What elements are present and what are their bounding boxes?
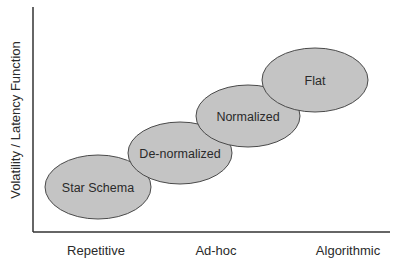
diagram-canvas: Volatility / Latency Function Star Schem… (0, 0, 403, 274)
ellipse-label: Flat (305, 74, 326, 88)
ellipse-label: Normalized (216, 110, 279, 124)
y-axis-label: Volatility / Latency Function (8, 41, 23, 199)
ellipse-flat: Flat (262, 48, 368, 112)
x-label-algorithmic: Algorithmic (316, 243, 381, 258)
ellipse-label: De-normalized (139, 147, 220, 161)
x-label-repetitive: Repetitive (67, 243, 125, 258)
x-label-ad-hoc: Ad-hoc (195, 243, 237, 258)
ellipse-label: Star Schema (62, 181, 134, 195)
